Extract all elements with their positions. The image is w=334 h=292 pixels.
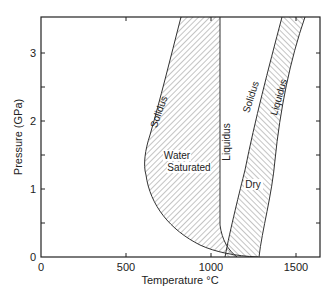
x-tick-label-0: 0 (38, 261, 44, 273)
y-tick-label-1: 1 (30, 183, 36, 195)
y-tick-label-0: 0 (30, 251, 36, 263)
x-tick-label-1500: 1500 (284, 261, 308, 273)
y-axis-title: Pressure (GPa) (12, 99, 24, 175)
ws-liquidus-label: Liquidus (221, 123, 232, 160)
x-axis-title: Temperature °C (141, 274, 218, 286)
y-tick-label-3: 3 (30, 47, 36, 59)
dry-label: Dry (245, 179, 261, 190)
x-tick-label-500: 500 (117, 261, 135, 273)
water-saturated-label-line1: Water (164, 150, 191, 161)
x-tick-label-1000: 1000 (199, 261, 223, 273)
water-saturated-label-line2: Saturated (167, 162, 210, 173)
y-tick-label-2: 2 (30, 115, 36, 127)
dry-solidus-label: Solidus (240, 80, 261, 115)
melting-curves-chart: 0 500 1000 1500 0 1 2 3 Temperature °C P… (0, 0, 334, 292)
